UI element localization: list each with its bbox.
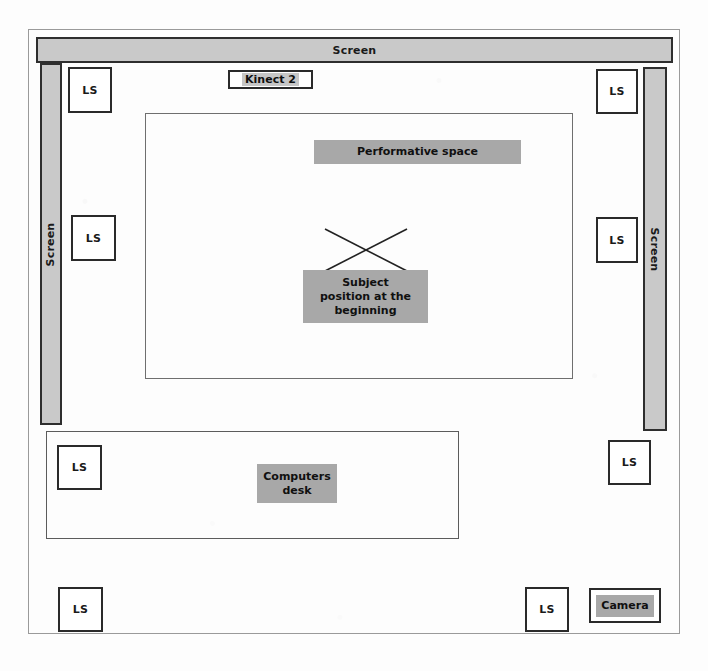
camera-box[interactable]: Camera: [589, 588, 661, 623]
subject-position-line-3: beginning: [334, 304, 396, 318]
ls-desk-left-label: LS: [72, 461, 88, 474]
subject-position-label: Subject position at the beginning: [303, 270, 428, 323]
ls-mid-right-label: LS: [609, 234, 625, 247]
ls-mid-right[interactable]: LS: [596, 217, 638, 263]
ls-bottom-right-label: LS: [539, 603, 555, 616]
screen-top-label: Screen: [333, 44, 377, 57]
ls-mid-left-label: LS: [86, 232, 102, 245]
ls-top-right-label: LS: [609, 85, 625, 98]
ls-top-left[interactable]: LS: [68, 67, 112, 113]
subject-position-line-2: position at the: [320, 290, 411, 304]
kinect-sensor-label: Kinect 2: [242, 73, 299, 86]
ls-bottom-left[interactable]: LS: [58, 587, 103, 632]
ls-top-left-label: LS: [82, 84, 98, 97]
ls-lower-right[interactable]: LS: [608, 440, 651, 485]
screen-left-label: Screen: [45, 222, 58, 266]
screen-top[interactable]: Screen: [36, 37, 673, 63]
performative-space-text: Performative space: [357, 145, 478, 159]
ls-bottom-left-label: LS: [73, 603, 89, 616]
diagram-canvas: Screen Screen Screen Kinect 2 Performati…: [0, 0, 708, 671]
camera-label: Camera: [596, 595, 654, 617]
kinect-sensor-box[interactable]: Kinect 2: [228, 70, 313, 89]
performative-space-label: Performative space: [314, 140, 521, 164]
computers-desk-line-1: Computers: [263, 470, 331, 484]
ls-top-right[interactable]: LS: [596, 69, 638, 114]
ls-desk-left[interactable]: LS: [57, 445, 102, 490]
ls-lower-right-label: LS: [622, 456, 638, 469]
subject-position-line-1: Subject: [342, 276, 389, 290]
computers-desk-label: Computers desk: [257, 464, 337, 503]
ls-mid-left[interactable]: LS: [71, 215, 116, 261]
screen-right-label: Screen: [649, 227, 662, 271]
screen-right[interactable]: Screen: [643, 67, 667, 431]
x-cross-icon: [323, 227, 409, 273]
screen-left[interactable]: Screen: [40, 63, 62, 425]
computers-desk-area[interactable]: [46, 431, 459, 539]
ls-bottom-right[interactable]: LS: [525, 587, 569, 632]
computers-desk-line-2: desk: [282, 484, 311, 498]
